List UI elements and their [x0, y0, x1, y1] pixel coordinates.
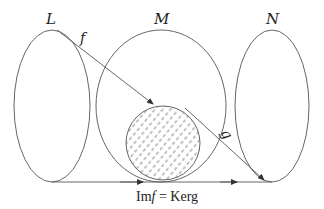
set-L-label: L [45, 10, 56, 28]
arrow-f: f [57, 30, 153, 104]
exact-sequence-diagram: L M N f g Imf = Kerg [0, 0, 324, 209]
set-N-ellipse [235, 30, 309, 182]
set-N: N [235, 10, 309, 182]
arrow-f-line [57, 30, 153, 104]
caption-im-f-equals-ker-g: Imf = Kerg [136, 189, 198, 204]
arrow-f-label: f [79, 30, 88, 46]
set-M-label: M [153, 10, 170, 28]
set-L-ellipse [14, 30, 90, 182]
set-L: L [14, 10, 90, 182]
arrow-g-label: g [218, 126, 236, 142]
image-kernel-shaded-region [126, 106, 200, 180]
set-N-label: N [265, 10, 280, 28]
